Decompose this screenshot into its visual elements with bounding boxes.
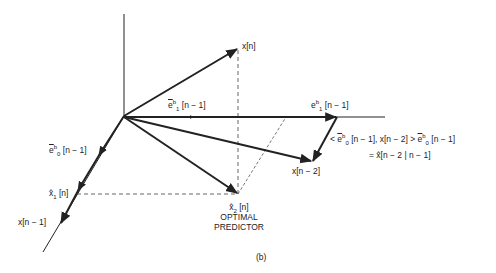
vector-x-n-minus-2 <box>124 117 311 161</box>
label-inner-product: < eb0 [n − 1], x[n − 2] > eb0 [n − 1] <box>330 134 455 144</box>
ip-e0-sub-2: 0 <box>426 140 429 146</box>
label-predictor: PREDICTOR <box>205 222 273 232</box>
ip-e0-sup-2: b <box>422 133 425 139</box>
label-arg: [n] <box>59 188 68 198</box>
label-sub: 1 <box>319 106 322 112</box>
vector-x2hat <box>124 117 237 193</box>
dashed-diagonal <box>238 117 286 194</box>
label-inner-product-result: = x̂[n − 2 | n − 1] <box>369 150 431 160</box>
label-arg: [n − 1] <box>325 100 349 110</box>
ip-e0-sup: b <box>342 133 345 139</box>
label-sup: b <box>54 144 57 150</box>
label-sub: 1 <box>53 194 56 200</box>
label-sub: 1 <box>176 106 179 112</box>
ip-end: [n − 1] <box>431 134 455 144</box>
label-optimal: OPTIMAL <box>205 212 273 222</box>
ip-mid: [n − 1], x[n − 2] > <box>351 134 417 144</box>
label-e0b-bar: eb0 [n − 1] <box>49 145 87 155</box>
label-e1b: eb1 [n − 1] <box>311 100 349 110</box>
label-sup: b <box>173 99 176 105</box>
label-sup: b <box>316 99 319 105</box>
x2hat-symbol: x̂2 [n] <box>205 202 273 212</box>
label-x-n-minus-1: x[n − 1] <box>18 217 46 227</box>
figure-caption: (b) <box>256 252 266 262</box>
label-x2hat: x̂2 [n] OPTIMAL PREDICTOR <box>205 202 273 232</box>
label-x-n: x[n] <box>242 41 256 51</box>
ip-e0-sub: 0 <box>345 140 348 146</box>
label-sub: 0 <box>57 151 60 157</box>
label-x1hat: x̂1 [n] <box>49 188 68 198</box>
label-arg: [n − 1] <box>182 100 206 110</box>
label-x-n-minus-2: x[n − 2] <box>292 166 320 176</box>
label-e1b-bar: eb1 [n − 1] <box>168 100 206 110</box>
label-arg: [n − 1] <box>63 145 87 155</box>
label-arg: [n] <box>239 202 248 212</box>
